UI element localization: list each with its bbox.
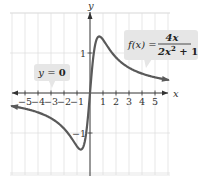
y-tick-label: 1 (80, 48, 86, 59)
y-axis-label: y (87, 0, 94, 11)
denominator-base: 2x (157, 46, 172, 57)
axes: xy−5−4−3−2−1123451−1 (12, 0, 179, 176)
asymptote-label-value: 0 (59, 67, 66, 78)
function-graph: xy−5−4−3−2−1123451−1 y = 0 f(x) = 4x 2x2… (0, 0, 207, 183)
function-label-numerator: 4x (166, 32, 180, 43)
x-axis-label: x (173, 88, 179, 99)
x-tick-label: −2 (57, 96, 71, 107)
curve-arrow-left-icon (10, 104, 18, 110)
function-callout: f(x) = 4x 2x2 + 1 (124, 30, 198, 68)
x-tick-label: 5 (152, 96, 158, 107)
function-callout-pointer (144, 59, 152, 68)
function-label-lhs: f(x) = (127, 39, 157, 50)
x-tick-label: 4 (139, 96, 145, 107)
y-tick-label: −1 (72, 128, 86, 139)
x-tick-label: −1 (70, 96, 84, 107)
plot-area: xy−5−4−3−2−1123451−1 y = 0 f(x) = 4x 2x2… (0, 0, 207, 183)
asymptote-label-lhs: y = (37, 67, 58, 78)
x-tick-label: −4 (31, 96, 45, 107)
denominator-rest: + 1 (176, 46, 198, 57)
x-tick-label: 3 (126, 96, 132, 107)
asymptote-callout: y = 0 (34, 64, 70, 88)
function-label-denominator: 2x2 + 1 (157, 44, 198, 57)
x-axis-arrow-right-icon (162, 91, 168, 96)
x-axis-arrow-left-icon (12, 91, 18, 96)
curve-arrow-right-icon (162, 76, 170, 82)
x-tick-label: −3 (44, 96, 58, 107)
asymptote-label: y = 0 (37, 67, 65, 78)
x-tick-label: 1 (100, 96, 106, 107)
x-tick-label: 2 (113, 96, 119, 107)
x-tick-label: −5 (18, 96, 32, 107)
